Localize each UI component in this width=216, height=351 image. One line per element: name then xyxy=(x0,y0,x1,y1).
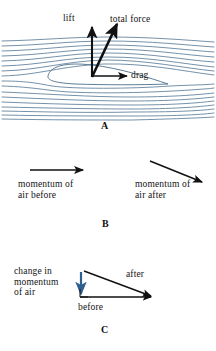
panel-letter-b: B xyxy=(102,218,109,229)
drag-label: drag xyxy=(131,70,148,81)
streamlines-lower xyxy=(2,92,214,120)
airfoil-figure: lift total force drag A momentum of air … xyxy=(0,0,216,351)
total-force-vector xyxy=(92,24,117,77)
streamlines-around xyxy=(2,81,214,93)
panel-letter-a: A xyxy=(101,120,108,131)
after-label: after xyxy=(126,269,144,280)
change-in-momentum-label: change in momentum of air xyxy=(14,266,58,298)
momentum-after-label: momentum of air after xyxy=(135,179,190,200)
before-label: before xyxy=(78,302,103,313)
momentum-before-label: momentum of air before xyxy=(18,179,73,200)
airfoil-shape xyxy=(48,64,168,85)
panel-letter-c: C xyxy=(101,324,108,335)
panel-c: change in momentum of air after before C xyxy=(0,238,216,351)
panel-b: momentum of air before momentum of air a… xyxy=(0,138,216,238)
total-force-label: total force xyxy=(110,14,150,25)
lift-label: lift xyxy=(63,13,75,24)
panel-a-graphic xyxy=(0,0,216,138)
panel-a: lift total force drag A xyxy=(0,0,216,138)
